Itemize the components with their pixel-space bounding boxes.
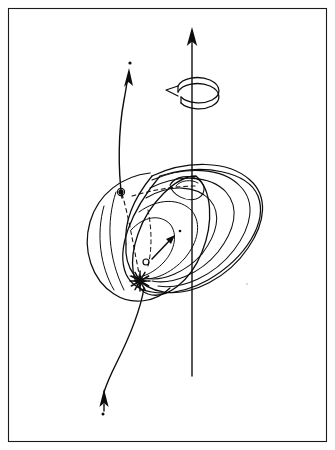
interior-arrow-terminal-dot xyxy=(179,230,182,233)
scientific-diagram xyxy=(0,0,335,450)
trajectory-lower-terminal-dot xyxy=(102,413,105,416)
trajectory-upper-terminal-dot xyxy=(128,61,131,64)
canvas-background xyxy=(0,0,335,450)
stray-speck xyxy=(246,283,248,285)
figure-root xyxy=(0,0,335,450)
